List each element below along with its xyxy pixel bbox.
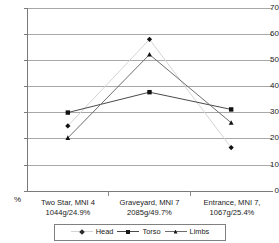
data-point-torso-1 <box>147 90 151 94</box>
data-point-torso-0 <box>66 110 70 114</box>
legend-marker-head <box>71 228 93 236</box>
legend-marker-torso <box>117 228 139 236</box>
data-point-limbs-1 <box>147 52 152 57</box>
legend-marker-limbs <box>165 228 187 236</box>
legend-label-torso: Torso <box>142 228 160 236</box>
legend-item-torso[interactable]: Torso <box>117 228 160 236</box>
series-line-limbs <box>68 55 231 138</box>
data-point-torso-2 <box>229 107 233 111</box>
series-layer <box>0 0 279 243</box>
legend-item-limbs[interactable]: Limbs <box>165 228 210 236</box>
chart-legend: Head Torso Limbs <box>54 224 226 241</box>
legend-label-limbs: Limbs <box>190 228 210 236</box>
line-chart: 70 60 50 40 30 20 10 0 % Two Star, MNI 4… <box>0 0 279 243</box>
legend-item-head[interactable]: Head <box>71 228 114 236</box>
legend-label-head: Head <box>96 228 114 236</box>
